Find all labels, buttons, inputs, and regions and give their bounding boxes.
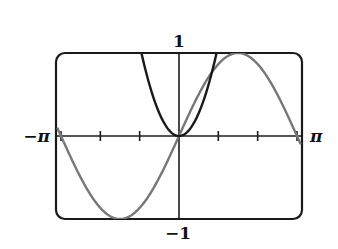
y-min-label: −1	[165, 223, 191, 243]
x-min-label: −π	[23, 126, 50, 146]
y-max-label: 1	[173, 31, 185, 51]
graphing-calculator-plot: 1 −1 −π π	[0, 0, 338, 249]
x-max-label: π	[309, 126, 323, 146]
